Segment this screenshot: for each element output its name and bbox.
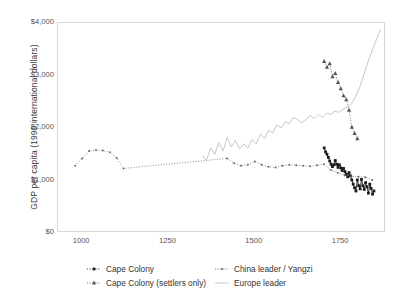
y-tick-1000: $1,000 <box>0 175 54 184</box>
data-point <box>330 169 332 171</box>
data-point <box>309 165 311 167</box>
data-point <box>371 193 374 196</box>
data-point <box>370 187 373 190</box>
legend-label: Cape Colony (settlers only) <box>106 278 206 288</box>
data-point <box>328 160 331 163</box>
data-point <box>371 179 373 181</box>
data-point <box>367 192 370 195</box>
data-point <box>344 170 347 173</box>
chart-legend: Cape ColonyChina leader / YangziCape Col… <box>86 262 376 292</box>
data-point <box>364 181 367 184</box>
data-point <box>323 147 326 150</box>
data-point <box>81 157 83 159</box>
data-point <box>352 183 355 186</box>
data-point <box>333 71 337 75</box>
y-tick-4000: $4,000 <box>0 17 54 26</box>
data-point <box>357 176 359 178</box>
legend-item-2[interactable]: China leader / Yangzi <box>214 264 366 274</box>
data-point <box>344 174 346 176</box>
data-point <box>337 166 340 169</box>
legend-label: Europe leader <box>234 278 286 288</box>
data-point <box>336 80 340 84</box>
data-point <box>350 179 353 182</box>
data-point <box>355 190 358 193</box>
series-3 <box>202 29 380 160</box>
legend-item-0[interactable]: Cape Colony <box>86 264 214 274</box>
data-point <box>368 183 371 186</box>
legend-marker-square-line-icon <box>86 264 102 274</box>
data-point <box>281 165 283 167</box>
data-point <box>334 159 337 162</box>
data-point <box>353 186 356 189</box>
data-point <box>366 185 369 188</box>
data-point <box>373 190 376 193</box>
legend-label: Cape Colony <box>106 264 154 274</box>
data-point <box>247 164 249 166</box>
data-point <box>361 184 364 187</box>
data-point <box>226 157 228 159</box>
data-point <box>233 162 235 164</box>
data-point <box>339 167 342 170</box>
data-point <box>275 166 277 168</box>
legend-item-3[interactable]: Europe leader <box>214 278 366 288</box>
plot-area <box>57 22 385 232</box>
data-point <box>268 166 270 168</box>
data-point <box>363 188 366 191</box>
data-point <box>342 167 345 170</box>
data-point <box>288 164 290 166</box>
data-point <box>302 165 304 167</box>
data-point <box>328 61 332 65</box>
data-point <box>316 164 318 166</box>
data-point <box>356 179 359 182</box>
data-point <box>323 163 325 165</box>
data-point <box>123 167 125 169</box>
x-tick-1250: 1250 <box>137 236 197 245</box>
data-point <box>364 176 366 178</box>
y-tick-2000: $2,000 <box>0 122 54 131</box>
data-point <box>322 59 326 63</box>
data-point <box>88 150 90 152</box>
legend-label: China leader / Yangzi <box>234 264 313 274</box>
data-point <box>102 150 104 152</box>
series-line <box>202 29 380 160</box>
legend-marker-dot-line-icon <box>214 264 230 274</box>
data-point <box>348 171 351 174</box>
data-point <box>261 164 263 166</box>
data-point <box>332 163 335 166</box>
data-point <box>350 175 352 177</box>
data-point <box>74 165 76 167</box>
data-point <box>95 149 97 151</box>
data-point <box>335 163 338 166</box>
chart-figure: GDP per capita (1990 international dolla… <box>0 0 397 303</box>
legend-marker-plain-line-icon <box>214 278 230 288</box>
data-point <box>359 188 362 191</box>
series-0 <box>323 147 376 196</box>
data-point <box>295 164 297 166</box>
data-point <box>347 108 351 112</box>
data-point <box>341 93 345 97</box>
series-canvas <box>58 23 386 233</box>
data-point <box>350 125 354 129</box>
data-point <box>327 156 330 159</box>
data-point <box>339 86 343 90</box>
x-tick-1000: 1000 <box>51 236 111 245</box>
x-tick-1500: 1500 <box>224 236 284 245</box>
data-point <box>357 184 360 187</box>
data-point <box>338 163 341 166</box>
data-point <box>240 165 242 167</box>
data-point <box>355 136 359 140</box>
legend-item-1[interactable]: Cape Colony (settlers only) <box>86 278 214 288</box>
data-point <box>109 151 111 153</box>
data-point <box>360 178 363 181</box>
data-point <box>116 157 118 159</box>
data-point <box>337 172 339 174</box>
legend-marker-triangle-line-icon <box>86 278 102 288</box>
y-tick-3000: $3,000 <box>0 70 54 79</box>
data-point <box>326 153 329 156</box>
y-tick-0: $0 <box>0 227 54 236</box>
x-tick-1750: 1750 <box>310 236 370 245</box>
data-point <box>254 161 256 163</box>
data-point <box>352 131 356 135</box>
